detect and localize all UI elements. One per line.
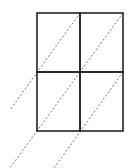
dashed-diagonal-line [10, 13, 80, 110]
dashed-diagonal-line [80, 13, 123, 72]
grid-diagram [0, 0, 130, 168]
dashed-diagonal-line [10, 72, 80, 168]
dashed-diagonal-line [54, 72, 123, 168]
dashed-diagonals [10, 13, 123, 168]
